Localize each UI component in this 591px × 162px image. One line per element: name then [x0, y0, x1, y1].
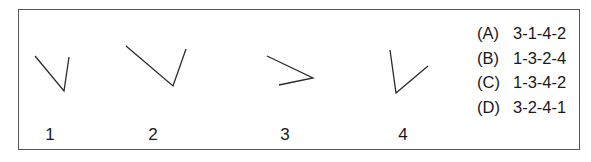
figure-label-1: 1	[35, 126, 65, 143]
figure-label-2: 2	[138, 126, 168, 143]
option-letter: (A)	[477, 24, 513, 43]
angle-figure-3	[267, 56, 313, 85]
angle-figure-2	[126, 46, 186, 86]
option-sequence: 1-3-2-4	[513, 49, 566, 67]
option-sequence: 1-3-4-2	[513, 73, 566, 91]
figure-label-4: 4	[388, 126, 418, 143]
option-letter: (C)	[477, 73, 513, 92]
option-a[interactable]: (A)3-1-4-2	[477, 24, 566, 49]
figure-label-3: 3	[270, 126, 300, 143]
option-b[interactable]: (B)1-3-2-4	[477, 49, 566, 74]
option-d[interactable]: (D)3-2-4-1	[477, 98, 566, 123]
option-sequence: 3-1-4-2	[513, 24, 566, 42]
answer-options: (A)3-1-4-2 (B)1-3-2-4 (C)1-3-4-2 (D)3-2-…	[477, 24, 566, 122]
option-letter: (B)	[477, 49, 513, 68]
option-sequence: 3-2-4-1	[513, 98, 566, 116]
angle-figure-1	[35, 56, 69, 91]
option-letter: (D)	[477, 98, 513, 117]
option-c[interactable]: (C)1-3-4-2	[477, 73, 566, 98]
angle-figure-4	[390, 50, 428, 93]
